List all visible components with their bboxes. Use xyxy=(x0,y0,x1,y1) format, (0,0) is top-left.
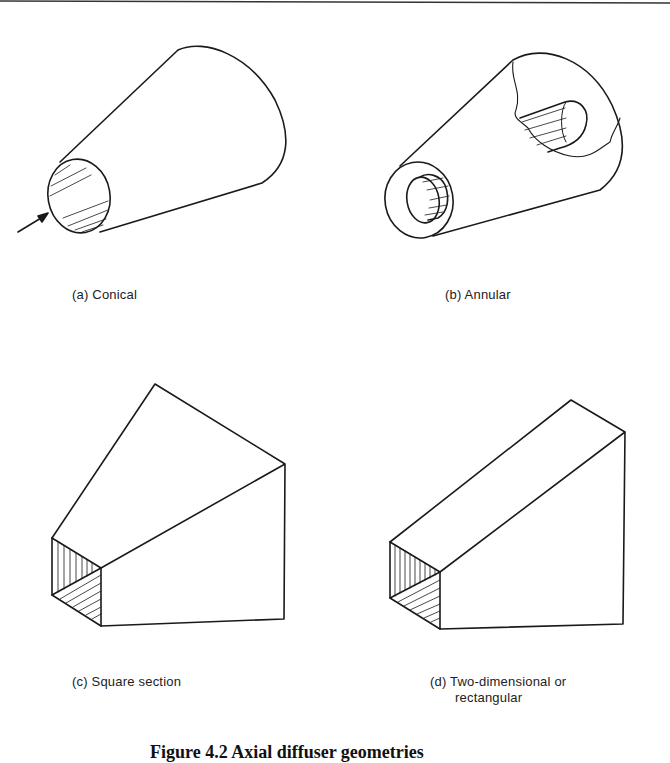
panel-b-label: (b) Annular xyxy=(445,287,511,302)
square-section-diffuser-drawing xyxy=(52,384,285,626)
panel-d-label-line1: (d) Two-dimensional or xyxy=(430,674,566,689)
annular-diffuser-drawing xyxy=(379,53,622,243)
panel-d-label-line2: rectangular xyxy=(455,690,522,705)
two-dimensional-diffuser-drawing xyxy=(390,400,625,629)
figure-caption: Figure 4.2 Axial diffuser geometries xyxy=(150,742,424,763)
panel-c-label: (c) Square section xyxy=(72,674,181,689)
conical-diffuser-drawing xyxy=(18,46,286,238)
inlet-flow-arrow-icon xyxy=(18,213,48,232)
panel-a-label: (a) Conical xyxy=(72,287,137,302)
